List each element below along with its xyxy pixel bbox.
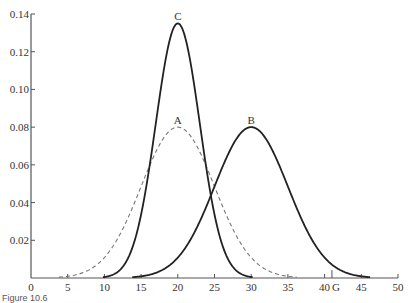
x-tick-label: 50 — [393, 281, 405, 293]
axes: 0.020.040.060.080.100.120.14051015202530… — [10, 8, 404, 293]
curve-a — [59, 127, 297, 277]
y-tick-label: 0.06 — [10, 159, 30, 171]
g-marker-label: G — [332, 281, 340, 293]
curves — [59, 23, 370, 277]
y-tick-label: 0.14 — [10, 8, 30, 20]
x-tick-label: 40 — [319, 281, 331, 293]
x-tick-label: 45 — [356, 281, 368, 293]
y-tick-label: 0.04 — [10, 197, 30, 209]
curve-label-a: A — [174, 114, 182, 126]
y-tick-label: 0.02 — [10, 234, 29, 246]
y-tick-label: 0.10 — [10, 83, 30, 95]
x-tick-label: 30 — [246, 281, 258, 293]
figure-caption: Figure 10.6 — [2, 293, 48, 303]
x-tick-label: 0 — [28, 281, 34, 293]
curve-label-c: C — [174, 10, 181, 22]
x-tick-label: 20 — [172, 281, 184, 293]
curve-label-b: B — [248, 114, 255, 126]
x-tick-label: 35 — [282, 281, 294, 293]
curve-b — [132, 127, 370, 277]
curve-labels: ABC — [174, 10, 255, 126]
x-tick-label: 25 — [209, 281, 221, 293]
x-tick-label: 10 — [99, 281, 111, 293]
y-tick-label: 0.12 — [10, 46, 29, 58]
x-tick-label: 15 — [136, 281, 148, 293]
x-tick-label: 5 — [65, 281, 71, 293]
y-tick-label: 0.08 — [10, 121, 30, 133]
